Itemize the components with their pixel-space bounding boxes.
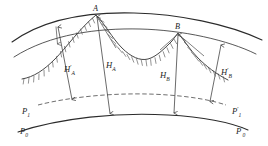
svg-text:H′A: H′A bbox=[63, 63, 76, 76]
label-HB-prime-mark: ′ bbox=[227, 66, 229, 73]
svg-text:P1: P1 bbox=[21, 106, 30, 118]
svg-text:P′1: P′1 bbox=[231, 105, 242, 118]
label-P0-prime: P′0 bbox=[235, 125, 246, 138]
label-P0-sub: 0 bbox=[25, 132, 28, 138]
dimension-line-HB bbox=[174, 35, 178, 113]
label-HA-prime-mark: ′ bbox=[70, 63, 72, 70]
top-datum-arc bbox=[12, 13, 262, 42]
svg-text:P′0: P′0 bbox=[235, 125, 246, 138]
label-HA-prime-sub: A bbox=[71, 70, 76, 76]
terrain-profile-line bbox=[22, 15, 228, 80]
terrain-hachures-valley-right bbox=[151, 39, 177, 65]
label-HB-prime-sub: B bbox=[229, 73, 233, 79]
svg-text:HA: HA bbox=[105, 60, 116, 72]
height-labels: H′A HA HB H′B bbox=[63, 60, 233, 82]
label-P1-prime-sub: 1 bbox=[239, 112, 242, 118]
label-P1-sub: 1 bbox=[27, 112, 30, 118]
dashed-datum-arc-p1 bbox=[38, 94, 226, 105]
point-label-A: A bbox=[92, 4, 99, 13]
label-HA-prime: H′A bbox=[63, 63, 76, 76]
bottom-datum-arc-p0 bbox=[18, 114, 248, 132]
diagram-canvas: A B H′A HA HB H′B bbox=[0, 0, 268, 146]
dimension-line-HB-prime bbox=[210, 45, 221, 102]
point-label-B: B bbox=[175, 22, 180, 31]
svg-text:HB: HB bbox=[159, 70, 170, 82]
ray-from-A-right bbox=[97, 16, 117, 48]
label-P0-prime-sub: 0 bbox=[243, 132, 246, 138]
label-P1: P1 bbox=[21, 106, 30, 118]
left-datum-separation-tick bbox=[56, 27, 58, 45]
label-P1-prime: P′1 bbox=[231, 105, 242, 118]
label-HB: HB bbox=[159, 70, 170, 82]
elevation-diagram-figure: A B H′A HA HB H′B bbox=[0, 0, 268, 146]
datum-labels: P1 P0 P′1 P′0 bbox=[19, 105, 246, 138]
label-HA: HA bbox=[105, 60, 116, 72]
label-P0: P0 bbox=[19, 126, 28, 138]
terrain-hachures-left bbox=[23, 18, 94, 84]
label-HA-sub: A bbox=[111, 66, 116, 72]
ray-from-B-right bbox=[178, 34, 204, 56]
svg-text:P0: P0 bbox=[19, 126, 28, 138]
label-HB-sub: B bbox=[166, 76, 170, 82]
terrain-surface bbox=[22, 15, 228, 84]
